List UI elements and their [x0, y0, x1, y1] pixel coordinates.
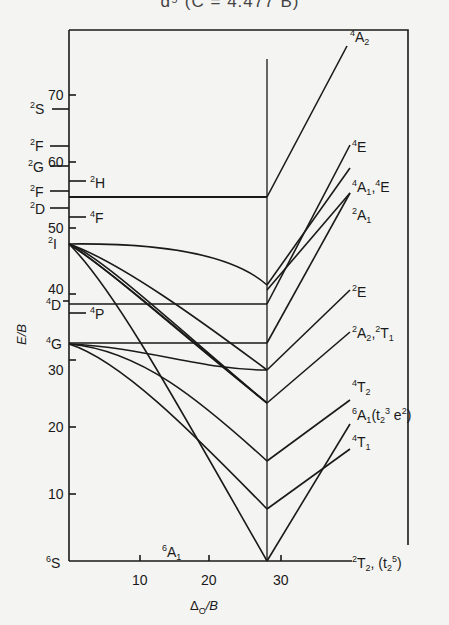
y-tick-60: 60	[48, 155, 64, 169]
term-4P: 4P	[90, 307, 104, 321]
label-2A2-2T1: 2A2,2T1	[352, 326, 394, 340]
y-tick-10: 10	[48, 487, 64, 501]
term-2F-lower: 2F	[30, 185, 44, 199]
line-4T2	[267, 400, 350, 461]
y-tick-50: 50	[48, 221, 64, 235]
label-4T1: 4T1	[352, 435, 371, 449]
term-4G: 4G	[46, 337, 62, 351]
term-2D: 2D	[30, 202, 45, 216]
label-2A1: 2A1	[352, 208, 371, 222]
term-4F: 4F	[90, 211, 104, 225]
y-axis-title: E/B	[14, 324, 29, 345]
line-2A1b	[267, 193, 350, 290]
term-2F-upper: 2F	[30, 139, 44, 153]
y-tick-70: 70	[48, 88, 64, 102]
term-2S: 2S	[30, 102, 44, 116]
line-2A2-2T1	[267, 332, 350, 403]
label-4A1-4E: 4A1,4E	[352, 180, 390, 194]
y-tick-40: 40	[48, 282, 64, 296]
line-2E	[267, 290, 350, 370]
term-4D: 4D	[46, 298, 61, 312]
line-4E	[267, 145, 350, 304]
x-tick-30: 30	[273, 573, 289, 587]
tanabe-sugano-diagram	[0, 0, 449, 625]
term-2H: 2H	[90, 176, 105, 190]
label-6A1-t2e: 6A1(t23 e2)	[352, 408, 411, 422]
x-tick-10: 10	[132, 573, 148, 587]
line-6A1-t2e	[267, 424, 350, 561]
label-2T2-t25: 2T2, (t25)	[352, 556, 402, 570]
y-tick-30: 30	[48, 363, 64, 377]
ground-6A1: 6A1	[162, 545, 181, 559]
x-tick-20: 20	[201, 573, 217, 587]
label-4A2: 4A2	[350, 30, 369, 44]
term-2G: 2G	[28, 160, 44, 174]
label-2E: 2E	[352, 285, 366, 299]
term-6S: 6S	[46, 556, 60, 570]
x-axis-title: ΔO/B	[190, 598, 218, 616]
term-2I: 2I	[48, 237, 57, 251]
label-4T2: 4T2	[352, 380, 371, 394]
y-tick-20: 20	[48, 420, 64, 434]
label-4E: 4E	[352, 140, 366, 154]
line-4T1	[267, 449, 350, 509]
